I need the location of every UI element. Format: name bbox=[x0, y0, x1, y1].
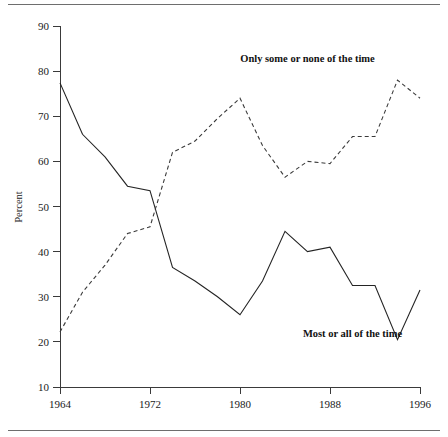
y-tick-labels: 908070605040302010 bbox=[38, 20, 50, 393]
y-tick-marks bbox=[53, 26, 60, 387]
series-annotation-0: Only some or none of the time bbox=[240, 53, 375, 64]
y-tick-label-20: 20 bbox=[38, 336, 50, 348]
x-tick-label-1972: 1972 bbox=[139, 398, 161, 410]
x-tick-label-1980: 1980 bbox=[229, 398, 252, 410]
y-tick-label-90: 90 bbox=[38, 20, 50, 32]
x-tick-marks bbox=[60, 387, 420, 394]
y-tick-label-70: 70 bbox=[38, 110, 50, 122]
y-tick-label-60: 60 bbox=[38, 155, 50, 167]
x-tick-label-1988: 1988 bbox=[319, 398, 342, 410]
y-tick-label-30: 30 bbox=[38, 291, 50, 303]
y-tick-label-50: 50 bbox=[38, 201, 50, 213]
data-series-group bbox=[60, 80, 420, 339]
y-axis: 908070605040302010 Percent bbox=[13, 20, 60, 393]
series-annotation-1: Most or all of the time bbox=[303, 328, 403, 339]
x-tick-labels: 19641972198019881996 bbox=[49, 398, 432, 410]
y-tick-label-40: 40 bbox=[38, 246, 50, 258]
y-axis-title: Percent bbox=[13, 191, 24, 223]
x-axis: 19641972198019881996 bbox=[49, 387, 432, 410]
x-tick-label-1996: 1996 bbox=[409, 398, 432, 410]
x-tick-label-1964: 1964 bbox=[49, 398, 72, 410]
y-tick-label-80: 80 bbox=[38, 65, 50, 77]
series-line-1 bbox=[60, 80, 420, 332]
chart-figure: 908070605040302010 Percent 1964197219801… bbox=[0, 0, 448, 437]
series-annotations-group: Only some or none of the timeMost or all… bbox=[240, 53, 402, 339]
y-tick-label-10: 10 bbox=[38, 381, 50, 393]
series-line-0 bbox=[60, 83, 420, 340]
line-chart-plot: 908070605040302010 Percent 1964197219801… bbox=[0, 0, 448, 437]
